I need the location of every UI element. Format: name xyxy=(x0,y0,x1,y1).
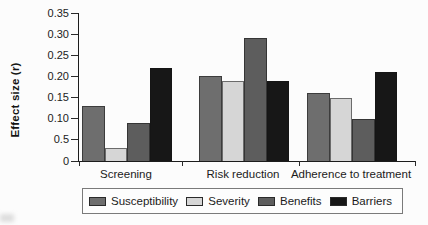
bar-risk-reduction-severity xyxy=(222,81,245,161)
bar-screening-benefits xyxy=(127,123,150,161)
bar-adherence-to-treatment-benefits xyxy=(352,119,375,161)
y-tick-mark xyxy=(71,55,78,56)
legend-label-benefits: Benefits xyxy=(280,195,322,207)
bar-screening-severity xyxy=(105,148,128,161)
y-tick-label: 0.10 xyxy=(31,112,69,125)
y-axis-title: Effect size (r) xyxy=(9,30,23,170)
legend-entry-benefits: Benefits xyxy=(258,195,322,207)
bar-adherence-to-treatment-barriers xyxy=(375,72,398,161)
bar-risk-reduction-barriers xyxy=(267,81,290,161)
y-tick-label: 0.15 xyxy=(31,91,69,104)
y-tick-mark xyxy=(71,34,78,35)
y-tick-mark xyxy=(71,76,78,77)
legend-swatch-benefits xyxy=(258,197,275,206)
scan-artifact xyxy=(0,214,14,222)
y-tick-label: 0 xyxy=(31,155,69,168)
legend-swatch-barriers xyxy=(330,197,347,206)
legend-label-susceptibility: Susceptibility xyxy=(111,195,178,207)
x-category-label-adherence-to-treatment: Adherence to treatment xyxy=(266,168,428,180)
legend-label-barriers: Barriers xyxy=(352,195,392,207)
y-tick-label: 0.20 xyxy=(31,70,69,83)
bar-screening-barriers xyxy=(150,68,173,161)
bar-screening-susceptibility xyxy=(82,106,105,161)
x-tick-mark xyxy=(182,161,183,166)
legend-swatch-severity xyxy=(186,197,203,206)
y-tick-label: 0.35 xyxy=(31,7,69,20)
bar-adherence-to-treatment-susceptibility xyxy=(307,93,330,161)
y-tick-mark xyxy=(71,139,78,140)
bar-chart-figure: Effect size (r) 0.350.300.250.200.150.10… xyxy=(0,0,428,225)
y-tick-mark xyxy=(71,161,78,162)
legend-entry-severity: Severity xyxy=(186,195,250,207)
y-tick-label: 0.25 xyxy=(31,49,69,62)
y-tick-label: 0.30 xyxy=(31,28,69,41)
y-tick-mark xyxy=(71,118,78,119)
bar-risk-reduction-susceptibility xyxy=(199,76,222,161)
y-tick-mark xyxy=(71,97,78,98)
legend-entry-barriers: Barriers xyxy=(330,195,392,207)
x-tick-mark xyxy=(299,161,300,166)
plot-area: Effect size (r) 0.350.300.250.200.150.10… xyxy=(78,13,416,162)
legend-entry-susceptibility: Susceptibility xyxy=(89,195,178,207)
y-tick-label: 0.5 xyxy=(31,133,69,146)
x-tick-mark xyxy=(79,161,80,166)
legend: SusceptibilitySeverityBenefitsBarriers xyxy=(82,188,403,214)
bar-risk-reduction-benefits xyxy=(244,38,267,161)
legend-label-severity: Severity xyxy=(208,195,250,207)
bar-adherence-to-treatment-severity xyxy=(330,98,353,161)
x-tick-mark xyxy=(415,161,416,166)
legend-swatch-susceptibility xyxy=(89,197,106,206)
y-tick-mark xyxy=(71,13,78,14)
